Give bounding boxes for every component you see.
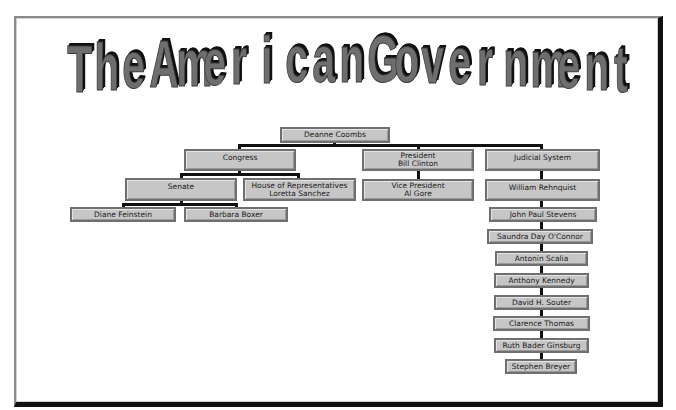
title-letter: e [122,32,139,98]
node-label-line2: Loretta Sanchez [269,190,330,198]
org-node-senator-feinstein: Diane Feinstein [70,207,176,222]
org-node-vice-president: Vice President Al Gore [362,179,474,201]
org-node-senator-boxer: Barbara Boxer [184,207,288,222]
org-node-congress: Congress [184,149,296,171]
org-node-house: House of Representatives Loretta Sanchez [243,178,356,201]
title-letter: c [285,26,302,92]
org-node-chief-justice: William Rehnquist [485,179,600,201]
connector-congress-horizontal [180,173,300,176]
node-label: Senate [168,183,194,191]
slide-title: The American Government TheAmericanGover… [58,24,638,104]
org-node-root: Deanne Coombs [280,127,390,143]
node-label: Deanne Coombs [304,131,366,139]
org-node-justice-ginsburg: Ruth Bader Ginsburg [494,338,589,353]
title-letter: o [394,26,411,92]
node-label: Ruth Bader Ginsburg [502,342,580,350]
node-label: Stephen Breyer [512,363,570,371]
node-label: Saundra Day O'Connor [497,233,583,241]
title-letter: T [67,36,84,102]
node-label: Barbara Boxer [209,211,263,219]
title-letter: n [340,26,357,92]
org-node-justice-thomas: Clarence Thomas [493,316,590,331]
node-label: William Rehnquist [509,184,576,192]
org-node-justice-scalia: Antonin Scalia [495,251,588,266]
org-node-judicial: Judicial System [485,149,600,171]
title-letter: n [503,30,520,96]
title-letter: e [557,32,574,98]
node-label: Anthony Kennedy [508,277,574,285]
title-letter: i [258,27,275,93]
title-letter: r [476,29,493,95]
title-letter: G [367,26,384,92]
connector-senate-horizontal [122,203,238,206]
title-letter: n [585,34,602,100]
title-letter: r [231,28,248,94]
org-node-justice-kennedy: Anthony Kennedy [494,273,589,288]
title-letter: m [530,31,547,97]
node-label: Clarence Thomas [509,320,574,328]
title-letter: a [312,26,329,92]
title-letter: v [421,27,438,93]
title-letter: A [149,31,166,97]
node-label: Judicial System [514,154,571,162]
node-label: Antonin Scalia [515,255,569,263]
node-label: Diane Feinstein [94,211,152,219]
node-label: Congress [223,154,258,162]
title-letter: m [176,30,193,96]
node-label-line2: Bill Clinton [398,160,438,168]
org-node-justice-oconnor: Saundra Day O'Connor [487,229,593,244]
org-node-president: President Bill Clinton [362,149,474,171]
node-label: John Paul Stevens [510,211,577,219]
org-node-justice-stevens: John Paul Stevens [489,207,597,222]
org-node-justice-souter: David H. Souter [494,295,589,310]
org-node-justice-breyer: Stephen Breyer [505,359,577,374]
node-label-line2: Al Gore [404,190,432,198]
org-node-senate: Senate [125,178,237,201]
node-label: David H. Souter [512,299,571,307]
title-letter: t [612,36,629,102]
title-letter: h [94,34,111,100]
title-letter: e [203,29,220,95]
title-letter: e [448,28,465,94]
connector-level1-horizontal [238,144,543,147]
